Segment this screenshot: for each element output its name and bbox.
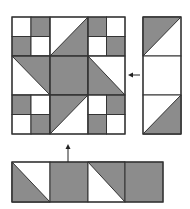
- left-arrow-icon: [128, 73, 140, 78]
- up-arrow-icon: [66, 144, 71, 162]
- quilt-diagram: [0, 0, 190, 209]
- triangle-square-middle-left: [12, 56, 50, 95]
- right-strip-top-triangle: [143, 17, 181, 56]
- bottom-strip-triangle-2: [88, 162, 125, 202]
- solid-square-center: [50, 56, 88, 95]
- four-patch-bottom-left: [12, 95, 50, 134]
- triangle-square-bottom-center: [50, 95, 88, 134]
- bottom-strip: [12, 162, 163, 202]
- right-strip-bottom-triangle: [143, 95, 181, 134]
- four-patch-bottom-right: [88, 95, 125, 134]
- bottom-strip-triangle-1: [12, 162, 50, 202]
- four-patch-top-left: [12, 17, 50, 56]
- main-quilt-block: [12, 17, 125, 134]
- triangle-square-top-center: [50, 17, 88, 56]
- right-strip-middle-blank: [143, 56, 181, 95]
- right-strip: [143, 17, 181, 134]
- four-patch-top-right: [88, 17, 125, 56]
- bottom-strip-solid-1: [50, 162, 88, 202]
- bottom-strip-solid-2: [125, 162, 163, 202]
- triangle-square-middle-right: [88, 56, 125, 95]
